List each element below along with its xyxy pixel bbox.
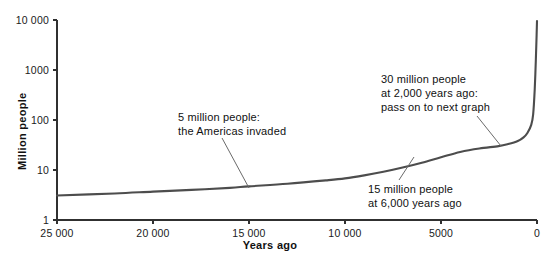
y-axis-tick-label: 10 000 xyxy=(0,14,49,26)
annotation-six-thousand-years: 15 million peopleat 6,000 years ago xyxy=(368,182,462,210)
leader-line-americas-invaded xyxy=(222,138,249,188)
x-axis-tick-label: 10 000 xyxy=(328,227,361,239)
annotation-line: at 2,000 years ago: xyxy=(381,86,490,100)
annotation-line: pass on to next graph xyxy=(381,100,490,114)
x-axis-ticks xyxy=(57,220,537,224)
axes-group xyxy=(57,20,537,220)
population-line-chart: 110100100010 000 25 00020 00015 00010 00… xyxy=(0,0,550,258)
annotation-two-thousand-years: 30 million peopleat 2,000 years ago:pass… xyxy=(381,72,490,114)
x-axis-tick-label: 0 xyxy=(534,227,540,239)
leader-line-two-thousand-years xyxy=(477,116,501,146)
y-axis-tick-label: 1000 xyxy=(0,64,49,76)
x-axis-tick-label: 25 000 xyxy=(40,227,73,239)
y-axis-title: Million people xyxy=(16,92,28,170)
x-axis-tick-label: 5000 xyxy=(429,227,453,239)
annotation-line: 5 million people: xyxy=(178,110,286,124)
annotation-line: 15 million people xyxy=(368,182,462,196)
annotation-line: 30 million people xyxy=(381,72,490,86)
x-axis-tick-label: 20 000 xyxy=(136,227,169,239)
annotation-americas-invaded: 5 million people:the Americas invaded xyxy=(178,110,286,138)
x-axis-tick-label: 15 000 xyxy=(232,227,265,239)
x-axis-title: Years ago xyxy=(243,239,298,251)
annotation-line: at 6,000 years ago xyxy=(368,196,462,210)
annotation-line: the Americas invaded xyxy=(178,124,286,138)
y-axis-tick-label: 1 xyxy=(0,214,49,226)
